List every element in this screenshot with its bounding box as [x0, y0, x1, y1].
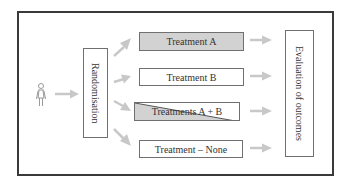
randomisation-label: Randomisation: [90, 63, 101, 124]
treatment-b-label: Treatment B: [167, 72, 217, 83]
arrows-to-evaluation: [250, 36, 272, 153]
randomisation-box: Randomisation: [83, 48, 108, 138]
arrows-to-treatments: [114, 38, 131, 146]
arrow-to-randomisation: [55, 90, 79, 99]
treatment-a-label: Treatment A: [167, 36, 217, 47]
treatment-none-label: Treatment – None: [155, 144, 227, 155]
evaluation-label: Evaluation of outcomes: [294, 46, 305, 141]
treatment-none-box: Treatment – None: [139, 140, 243, 158]
evaluation-box: Evaluation of outcomes: [285, 30, 314, 157]
treatment-a-b-box: Treatments A + B: [134, 102, 240, 121]
treatment-b-box: Treatment B: [139, 68, 244, 86]
person-icon: [37, 84, 46, 107]
treatment-a-b-label: Treatments A + B: [152, 106, 223, 117]
treatment-a-box: Treatment A: [139, 32, 244, 51]
